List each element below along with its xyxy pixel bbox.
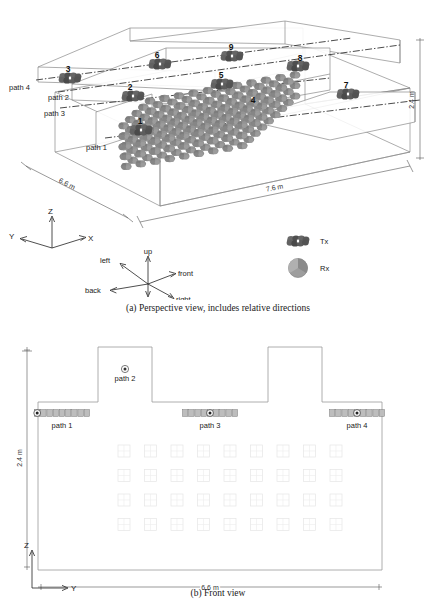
legend-tx: Tx bbox=[287, 235, 329, 246]
direction-left-label: left bbox=[100, 256, 111, 265]
transceiver-element bbox=[367, 410, 372, 417]
lattice-node bbox=[243, 115, 254, 122]
node-label-3: 3 bbox=[66, 64, 71, 74]
transceiver-element bbox=[195, 410, 200, 417]
lattice-node bbox=[164, 145, 175, 152]
lattice-node bbox=[150, 147, 161, 154]
figure-container: 3 6 9 8 2 5 7 1 4 path 4 path 2 path 3 p… bbox=[0, 0, 436, 612]
transceiver-element bbox=[189, 410, 194, 417]
tx-cluster-9 bbox=[221, 50, 244, 61]
transceiver-element bbox=[201, 410, 206, 417]
grid-marker-cross bbox=[171, 445, 183, 457]
grid-marker-cross bbox=[198, 470, 210, 482]
transceiver-element bbox=[78, 410, 83, 417]
transceiver-element bbox=[361, 410, 366, 417]
transceiver-element bbox=[336, 410, 341, 417]
transceiver-element bbox=[226, 410, 231, 417]
panel-a-caption: (a) Perspective view, includes relative … bbox=[0, 303, 436, 313]
lattice-node bbox=[222, 134, 233, 141]
axis-label-y: Y bbox=[9, 232, 15, 241]
legend-tx-label: Tx bbox=[320, 237, 329, 246]
grid-marker-cross bbox=[304, 445, 316, 457]
relative-directions-star: up down front back left right bbox=[85, 247, 194, 300]
lattice-node bbox=[135, 139, 146, 146]
lattice-node bbox=[164, 155, 175, 162]
path-1-label-front: path 1 bbox=[52, 421, 73, 430]
transceiver-element bbox=[183, 410, 188, 417]
lattice-node bbox=[237, 142, 248, 149]
grid-marker-cross bbox=[304, 519, 316, 531]
grid-marker-cross bbox=[198, 519, 210, 531]
axis-label-z-front: Z bbox=[24, 541, 29, 550]
node-label-4: 4 bbox=[251, 95, 256, 105]
grid-marker-cross bbox=[198, 494, 210, 506]
transceiver-element bbox=[373, 410, 378, 417]
legend-rx: Rx bbox=[288, 259, 329, 278]
grid-marker-cross bbox=[171, 470, 183, 482]
panel-b-caption: (b) Front view bbox=[0, 588, 436, 598]
lattice-node bbox=[121, 142, 132, 149]
path-1-label: path 1 bbox=[86, 143, 107, 152]
lattice-node bbox=[208, 126, 219, 133]
path-2-symbol bbox=[121, 365, 128, 372]
path-origin-dot bbox=[36, 412, 39, 415]
grid-marker-cross bbox=[251, 519, 263, 531]
perspective-view-panel: 3 6 9 8 2 5 7 1 4 path 4 path 2 path 3 p… bbox=[0, 0, 436, 300]
node-label-1: 1 bbox=[138, 116, 143, 126]
lattice-node bbox=[164, 134, 175, 141]
lattice-node bbox=[179, 142, 190, 149]
grid-marker-cross bbox=[251, 470, 263, 482]
grid-marker-cross bbox=[251, 494, 263, 506]
direction-down-label: down bbox=[139, 298, 157, 300]
transceiver-element bbox=[47, 410, 52, 417]
dimension-height: 2.4 m bbox=[408, 38, 424, 160]
tx-cluster-6 bbox=[149, 58, 172, 69]
tx-cluster-1 bbox=[130, 124, 153, 135]
axis-label-z: Z bbox=[48, 207, 53, 216]
lattice-node bbox=[290, 71, 301, 78]
transceiver-element bbox=[66, 410, 71, 417]
grid-marker-cross bbox=[224, 494, 236, 506]
direction-front-label: front bbox=[178, 269, 194, 278]
grid-marker-cross bbox=[304, 494, 316, 506]
lattice-node bbox=[237, 132, 248, 139]
lattice-node bbox=[179, 152, 190, 159]
grid-marker-cross bbox=[118, 470, 130, 482]
node-label-9: 9 bbox=[229, 42, 234, 52]
path-4-label-front: path 4 bbox=[347, 421, 368, 430]
transceiver-element bbox=[41, 410, 46, 417]
lattice-node bbox=[250, 109, 261, 116]
path-origin-dot bbox=[209, 412, 212, 415]
transceiver-element bbox=[330, 410, 335, 417]
grid-marker-cross bbox=[277, 519, 289, 531]
node-label-5: 5 bbox=[219, 70, 224, 80]
lattice-node bbox=[150, 158, 161, 165]
equipment-grid bbox=[118, 445, 342, 531]
lattice-node bbox=[193, 150, 204, 157]
grid-marker-cross bbox=[224, 519, 236, 531]
transceiver-element bbox=[232, 410, 237, 417]
transceiver-element bbox=[220, 410, 225, 417]
tx-cluster-3 bbox=[59, 72, 82, 83]
grid-marker-cross bbox=[224, 445, 236, 457]
transceiver-element bbox=[84, 410, 89, 417]
lattice-node bbox=[208, 147, 219, 154]
path-2-label: path 2 bbox=[48, 93, 69, 102]
lattice-node bbox=[135, 150, 146, 157]
lattice-node bbox=[263, 96, 274, 103]
grid-marker-cross bbox=[171, 494, 183, 506]
axes-triad-perspective: Z X Y bbox=[9, 207, 94, 248]
dimension-length-label: 7.6 m bbox=[265, 182, 284, 192]
node-label-7: 7 bbox=[344, 80, 349, 90]
transceiver-element bbox=[53, 410, 58, 417]
grid-marker-cross bbox=[330, 470, 342, 482]
lattice-node bbox=[150, 137, 161, 144]
transceiver-element bbox=[379, 410, 384, 417]
path-1-symbol bbox=[34, 410, 90, 417]
grid-marker-cross bbox=[145, 445, 157, 457]
transceiver-element bbox=[59, 410, 64, 417]
dimension-height-front-label: 2.4 m bbox=[16, 449, 23, 467]
lattice-node bbox=[135, 160, 146, 167]
direction-right-label: right bbox=[176, 295, 192, 300]
legend-rx-label: Rx bbox=[320, 264, 329, 273]
